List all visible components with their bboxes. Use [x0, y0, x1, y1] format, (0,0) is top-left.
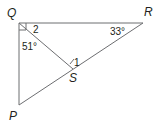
vertex-label-s: S	[69, 71, 77, 85]
angle-label-pqs: 51°	[22, 41, 37, 52]
angle-label-1: 1	[74, 57, 80, 68]
triangle-diagram: Q R P S 2 51° 33° 1	[0, 0, 159, 129]
angle-label-r: 33°	[110, 26, 125, 37]
vertex-label-q: Q	[7, 6, 16, 20]
angle-label-2: 2	[33, 24, 39, 35]
vertex-label-p: P	[9, 109, 17, 123]
vertex-label-r: R	[144, 5, 153, 19]
